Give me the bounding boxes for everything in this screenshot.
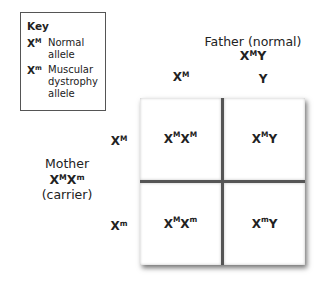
mother-status: (carrier): [30, 187, 104, 202]
father-genotype: XMY: [183, 48, 323, 63]
cell-top-left: XMXM: [140, 98, 221, 180]
father-allele-2: Y: [240, 72, 286, 86]
key-symbol: Xm: [27, 64, 48, 100]
punnett-square: XMXM XMY XMXm XmY: [140, 98, 305, 265]
cell-bottom-right: XmY: [224, 183, 305, 265]
key-description: Normal allele: [48, 37, 105, 61]
key-box: Key XM Normal allele Xm Muscular dystrop…: [20, 12, 106, 111]
key-symbol: XM: [27, 37, 48, 61]
key-title: Key: [27, 20, 105, 32]
mother-label: Mother: [30, 156, 104, 171]
mother-genotype: XMXm: [30, 172, 104, 187]
key-item-dystrophy: Xm Muscular dystrophy allele: [27, 64, 105, 100]
mother-allele-1: XM: [104, 134, 134, 148]
cell-top-right: XMY: [224, 98, 305, 180]
cell-bottom-left: XMXm: [140, 183, 221, 265]
mother-allele-2: Xm: [104, 219, 134, 233]
key-description: Muscular dystrophy allele: [48, 64, 105, 100]
father-label: Father (normal): [183, 34, 323, 49]
key-item-normal: XM Normal allele: [27, 37, 105, 61]
father-allele-1: XM: [158, 70, 204, 84]
